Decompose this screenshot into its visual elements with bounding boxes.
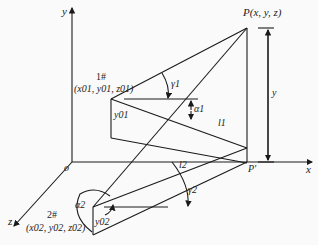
alpha1-label: α1: [194, 104, 204, 114]
origin-label: o: [64, 163, 69, 173]
camera2-height: y02: [95, 217, 109, 227]
camera1-height: y01: [114, 110, 128, 120]
point-P-label: P(x, y, z): [243, 7, 281, 18]
gamma2-label: γ2: [188, 185, 197, 195]
gamma1-label: γ1: [171, 79, 180, 89]
height-y-label: y: [272, 88, 276, 98]
diagram-canvas: y x z o P(x, y, z) P' y 1# (x01, y01, z0…: [0, 0, 318, 245]
y-axis-label: y: [62, 6, 67, 17]
l1-label: l1: [218, 118, 226, 128]
x-axis-label: x: [306, 164, 311, 175]
camera2-name: 2#: [47, 210, 57, 220]
camera1-name: 1#: [96, 72, 106, 82]
alpha2-label: α2: [75, 200, 85, 210]
z-axis-label: z: [8, 216, 12, 227]
l2-label: l2: [179, 160, 187, 170]
point-P-prime-label: P': [248, 164, 256, 174]
camera2-coords: (x02, y02, z02): [26, 223, 85, 233]
camera1-coords: (x01, y01, z01): [74, 84, 133, 94]
